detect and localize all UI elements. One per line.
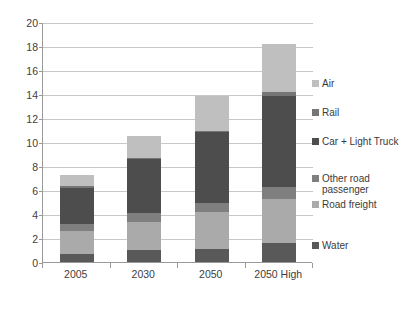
bar-segment-road-freight[interactable]: [127, 222, 161, 250]
legend-label: Rail: [322, 107, 339, 118]
bar-segment-road-freight[interactable]: [262, 199, 296, 243]
bar-segment-rail[interactable]: [195, 131, 229, 133]
legend-item-water[interactable]: Water: [312, 240, 348, 251]
stacked-bar-chart: 02468101214161820 2005203020502050 High …: [0, 0, 407, 314]
bar-segment-car-light-truck[interactable]: [262, 96, 296, 187]
bar-segment-car-light-truck[interactable]: [195, 132, 229, 203]
legend-label: Water: [322, 240, 348, 251]
bar-segment-road-freight[interactable]: [195, 212, 229, 249]
bar-segment-other-road-passenger[interactable]: [195, 203, 229, 211]
legend-item-rail[interactable]: Rail: [312, 107, 339, 118]
x-axis-tick-label: 2005: [42, 269, 110, 280]
bar-2050[interactable]: [195, 22, 229, 262]
bar-segment-air[interactable]: [195, 96, 229, 131]
bar-segment-car-light-truck[interactable]: [60, 188, 94, 224]
y-axis-tick-label: 12: [10, 114, 38, 125]
x-axis-tick-mark: [177, 263, 178, 268]
legend-swatch-icon: [312, 109, 319, 116]
legend-swatch-icon: [312, 138, 319, 145]
y-axis-tick-label: 4: [10, 210, 38, 221]
bar-segment-car-light-truck[interactable]: [127, 159, 161, 212]
x-axis-tick-label: 2050: [177, 269, 245, 280]
bar-segment-rail[interactable]: [60, 186, 94, 187]
x-axis-tick-label: 2030: [110, 269, 178, 280]
bar-segment-rail[interactable]: [262, 92, 296, 96]
y-axis-tick-mark: [39, 239, 43, 240]
x-axis: 2005203020502050 High: [42, 263, 312, 293]
y-axis-tick-label: 2: [10, 234, 38, 245]
y-axis-tick-label: 6: [10, 186, 38, 197]
legend-swatch-icon: [312, 175, 319, 182]
bar-segment-rail[interactable]: [127, 158, 161, 160]
y-axis-tick-mark: [39, 191, 43, 192]
bar-2050-high[interactable]: [262, 22, 296, 262]
y-axis-tick-label: 10: [10, 138, 38, 149]
legend-item-road-freight[interactable]: Road freight: [312, 199, 376, 210]
bar-segment-other-road-passenger[interactable]: [262, 187, 296, 199]
y-axis-tick-mark: [39, 47, 43, 48]
legend-swatch-icon: [312, 80, 319, 87]
legend-swatch-icon: [312, 201, 319, 208]
y-axis-tick-mark: [39, 167, 43, 168]
y-axis-tick-mark: [39, 143, 43, 144]
y-axis-tick-label: 16: [10, 66, 38, 77]
bar-segment-road-freight[interactable]: [60, 231, 94, 254]
bar-2030[interactable]: [127, 22, 161, 262]
y-axis-tick-mark: [39, 71, 43, 72]
y-axis-tick-label: 0: [10, 258, 38, 269]
y-axis-tick-mark: [39, 23, 43, 24]
legend-item-other-road-passenger[interactable]: Other road passenger: [312, 173, 384, 195]
bar-segment-air[interactable]: [127, 136, 161, 158]
x-axis-tick-mark: [42, 263, 43, 268]
y-axis-tick-label: 20: [10, 18, 38, 29]
bar-segment-other-road-passenger[interactable]: [127, 213, 161, 223]
bar-segment-air[interactable]: [60, 175, 94, 186]
x-axis-tick-label: 2050 High: [245, 269, 313, 280]
legend-item-air[interactable]: Air: [312, 78, 334, 89]
bar-segment-water[interactable]: [262, 243, 296, 262]
y-axis-tick-mark: [39, 95, 43, 96]
y-axis-tick-mark: [39, 215, 43, 216]
y-axis-tick-label: 18: [10, 42, 38, 53]
y-axis-tick-label: 8: [10, 162, 38, 173]
legend-label: Air: [322, 78, 334, 89]
bar-segment-other-road-passenger[interactable]: [60, 224, 94, 231]
x-axis-tick-mark: [110, 263, 111, 268]
bar-2005[interactable]: [60, 22, 94, 262]
plot-area: [42, 23, 312, 263]
bar-segment-air[interactable]: [262, 44, 296, 92]
y-axis-tick-label: 14: [10, 90, 38, 101]
legend-item-car-light-truck[interactable]: Car + Light Truck: [312, 136, 398, 147]
legend-label: Other road passenger: [322, 173, 384, 195]
x-axis-tick-mark: [312, 263, 313, 268]
legend-swatch-icon: [312, 242, 319, 249]
legend-label: Car + Light Truck: [322, 136, 398, 147]
bar-segment-water[interactable]: [127, 250, 161, 262]
y-axis-tick-mark: [39, 119, 43, 120]
bar-segment-water[interactable]: [60, 254, 94, 262]
legend-label: Road freight: [322, 199, 376, 210]
bar-segment-water[interactable]: [195, 249, 229, 262]
x-axis-tick-mark: [245, 263, 246, 268]
